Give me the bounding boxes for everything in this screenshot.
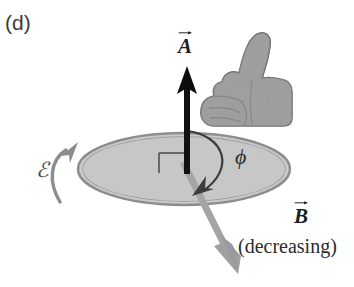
emf-curved-arrow-icon (52, 142, 78, 202)
field-vector-label: B (294, 206, 308, 227)
area-vector-letter: A (178, 36, 192, 57)
field-vector-letter: B (294, 206, 308, 227)
emf-label: ℰ (36, 160, 49, 181)
angle-phi-label: ϕ (235, 146, 246, 168)
emf-arrow-path (52, 150, 66, 202)
vector-overline-arrow-icon (294, 199, 308, 206)
figure-panel-d: (d) A B ϕ ℰ (decreasing) (0, 0, 354, 287)
area-vector-label: A (178, 36, 192, 57)
thumbs-up-right-hand-icon (201, 33, 292, 126)
panel-label: (d) (5, 12, 31, 33)
vector-overline-arrow-icon (178, 29, 192, 36)
field-state-label: (decreasing) (238, 236, 337, 256)
